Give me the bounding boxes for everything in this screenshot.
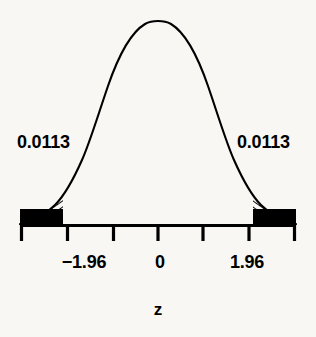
- x-axis-title: z: [0, 301, 316, 318]
- right-tail-area-label: 0.0113: [237, 133, 290, 151]
- normal-density-curve: [20, 21, 296, 224]
- left-tail-area-label: 0.0113: [17, 133, 70, 151]
- normal-curve-figure: [0, 0, 316, 337]
- x-tick-label-negative: −1.96: [34, 253, 134, 271]
- figure-container: 0.0113 0.0113 −1.96 0 1.96 z: [0, 0, 316, 337]
- x-tick-label-zero: 0: [132, 253, 188, 271]
- x-axis-ticks: [22, 225, 295, 241]
- x-tick-label-positive: 1.96: [200, 253, 294, 271]
